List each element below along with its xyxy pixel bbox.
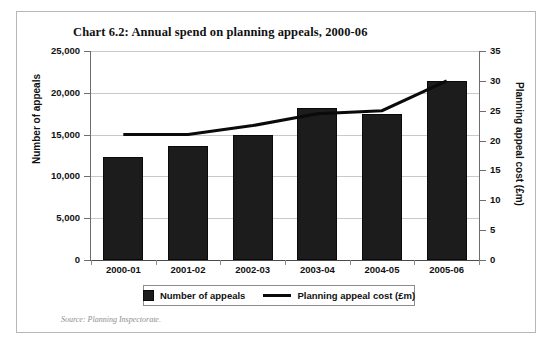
y-axis-left-tick-label: 20,000 bbox=[51, 88, 80, 98]
y-axis-right-tick bbox=[480, 111, 486, 112]
y-axis-left-tick bbox=[84, 93, 90, 94]
y-axis-left-tick bbox=[84, 135, 90, 136]
x-axis-label: 2001-02 bbox=[156, 264, 221, 275]
x-axis-tick bbox=[479, 260, 480, 265]
y-axis-left-tick bbox=[84, 260, 90, 261]
y-axis-right-tick-label: 30 bbox=[490, 76, 501, 86]
y-axis-right-title: Planning appeal cost (£m) bbox=[514, 82, 525, 206]
y-axis-right-tick bbox=[480, 170, 486, 171]
y-axis-left-tick-label: 25,000 bbox=[51, 46, 80, 56]
y-axis-left-tick-label: 0 bbox=[75, 255, 80, 265]
legend-item-number-of-appeals: Number of appeals bbox=[143, 290, 246, 301]
y-axis-left-title: Number of appeals bbox=[31, 74, 42, 164]
x-axis-label: 2002-03 bbox=[220, 264, 285, 275]
y-axis-right-tick-label: 25 bbox=[490, 106, 501, 116]
y-axis-left-tick-label: 10,000 bbox=[51, 171, 80, 181]
line-series bbox=[91, 51, 479, 260]
y-axis-right-tick bbox=[480, 260, 486, 261]
y-axis-left bbox=[90, 51, 91, 260]
x-axis-label: 2000-01 bbox=[91, 264, 156, 275]
legend-bar-swatch-icon bbox=[143, 290, 154, 301]
chart-title: Chart 6.2: Annual spend on planning appe… bbox=[73, 25, 493, 40]
y-axis-right-tick-label: 35 bbox=[490, 46, 501, 56]
y-axis-right-tick-label: 10 bbox=[490, 195, 501, 205]
plot-area: 05,00010,00015,00020,00025,000 051015202… bbox=[91, 51, 479, 260]
x-axis-labels: 2000-012001-022002-032003-042004-052005-… bbox=[91, 264, 479, 280]
x-axis-label: 2003-04 bbox=[285, 264, 350, 275]
y-axis-right bbox=[479, 51, 480, 260]
y-axis-right-tick bbox=[480, 230, 486, 231]
chart-legend: Number of appeals Planning appeal cost (… bbox=[143, 285, 415, 306]
y-axis-right-tick bbox=[480, 51, 486, 52]
y-axis-left-tick bbox=[84, 218, 90, 219]
chart-figure: Chart 6.2: Annual spend on planning appe… bbox=[16, 11, 536, 333]
y-axis-left-tick bbox=[84, 51, 90, 52]
y-axis-right-tick bbox=[480, 141, 486, 142]
legend-line-swatch-icon bbox=[263, 294, 291, 297]
y-axis-right-tick-label: 0 bbox=[490, 255, 495, 265]
y-axis-right-tick bbox=[480, 200, 486, 201]
legend-label-number-of-appeals: Number of appeals bbox=[160, 290, 246, 301]
legend-item-planning-appeal-cost: Planning appeal cost (£m) bbox=[263, 290, 415, 301]
legend-label-planning-appeal-cost: Planning appeal cost (£m) bbox=[297, 290, 415, 301]
source-note: Source: Planning Inspectorate. bbox=[61, 315, 161, 324]
y-axis-right-tick-label: 15 bbox=[490, 165, 501, 175]
y-axis-left-tick-label: 5,000 bbox=[56, 213, 80, 223]
y-axis-left-tick-label: 15,000 bbox=[51, 130, 80, 140]
x-axis-label: 2004-05 bbox=[350, 264, 415, 275]
y-axis-right-tick-label: 5 bbox=[490, 225, 495, 235]
planning-appeal-cost-line bbox=[123, 81, 446, 135]
y-axis-left-tick bbox=[84, 176, 90, 177]
y-axis-right-tick-label: 20 bbox=[490, 136, 501, 146]
y-axis-right-tick bbox=[480, 81, 486, 82]
x-axis-label: 2005-06 bbox=[414, 264, 479, 275]
